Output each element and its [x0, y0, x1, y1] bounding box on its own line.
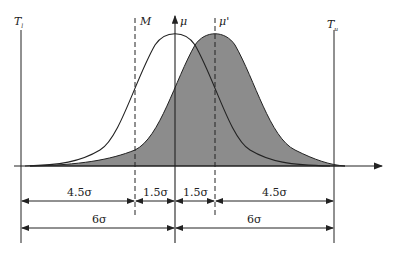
lower-limit-label: Tl [14, 15, 23, 29]
tolerance-center-label: M [139, 15, 152, 28]
dim-label-4.5sigma-right: 4.5σ [262, 186, 287, 199]
shifted-mean-label: μ' [219, 15, 229, 28]
dim-label-6sigma-right: 6σ [247, 213, 262, 226]
shifted-distribution-curve [30, 34, 345, 166]
dim-label-1.5sigma-left: 1.5σ [143, 186, 168, 199]
process-shift-diagram: Tl M μ μ' Tu 4.5σ 1.5σ 1.5σ 4.5σ 6σ 6σ [0, 0, 397, 258]
dim-label-4.5sigma-left: 4.5σ [67, 186, 92, 199]
mean-label: μ [180, 15, 187, 28]
upper-limit-label: Tu [327, 18, 338, 32]
dim-label-6sigma-left: 6σ [92, 213, 107, 226]
dim-label-1.5sigma-right: 1.5σ [183, 186, 208, 199]
